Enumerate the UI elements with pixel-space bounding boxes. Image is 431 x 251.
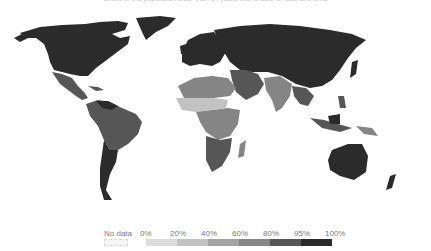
- region-uk: [180, 44, 186, 54]
- region-mexico-central-america: [52, 72, 88, 100]
- region-new-zealand: [386, 174, 396, 190]
- legend-tick-20: 20%: [170, 229, 186, 238]
- region-japan: [350, 60, 358, 78]
- region-middle-east: [230, 70, 264, 100]
- legend-swatch-nodata: [104, 239, 128, 246]
- legend-tick-80: 80%: [263, 229, 279, 238]
- legend-swatch-20-40: [177, 239, 208, 246]
- legend-swatch-60-80: [239, 239, 270, 246]
- legend-swatch-95-100: [301, 239, 332, 246]
- legend-tick-40: 40%: [201, 229, 217, 238]
- region-southeast-asia: [292, 86, 314, 106]
- legend-nodata-label: No data: [104, 229, 132, 238]
- region-australia: [328, 144, 368, 180]
- legend-tick-0: 0%: [140, 229, 152, 238]
- region-borneo: [328, 114, 340, 124]
- world-choropleth-map: [0, 0, 431, 225]
- legend-tick-60: 60%: [232, 229, 248, 238]
- region-southern-africa: [206, 136, 232, 172]
- region-madagascar: [238, 140, 246, 158]
- legend-tick-100: 100%: [325, 229, 345, 238]
- region-north-america: [20, 21, 130, 76]
- legend-tick-95: 95%: [294, 229, 310, 238]
- legend-swatch-80-95: [270, 239, 301, 246]
- legend-swatch-40-60: [208, 239, 239, 246]
- region-caribbean: [88, 86, 104, 91]
- region-new-guinea: [356, 126, 378, 136]
- legend-swatch-0-20: [146, 239, 177, 246]
- region-philippines: [338, 96, 346, 108]
- region-south-asia: [264, 76, 292, 112]
- region-central-east-africa: [196, 108, 240, 140]
- region-north-africa: [178, 76, 236, 98]
- region-greenland: [136, 16, 176, 40]
